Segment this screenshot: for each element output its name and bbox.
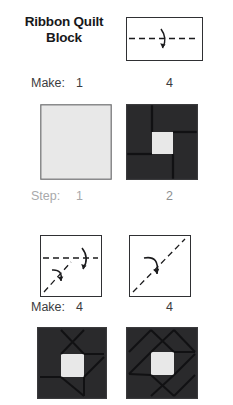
center-light-square-icon (61, 354, 84, 377)
pinwheel-log-cabin-svg (126, 104, 198, 180)
step-number-one: 1 (76, 189, 83, 203)
fold-arrow-head-icon (153, 269, 159, 274)
fold-square-right-diagram (129, 235, 191, 297)
quilt-instruction-sheet: Ribbon Quilt Block Make: 1 4 (0, 0, 233, 405)
ribbon-block-partial (37, 327, 107, 399)
step-row: Step: 1 2 (0, 189, 233, 209)
ribbon-block-complete (126, 327, 198, 399)
plain-light-square-block (40, 104, 112, 180)
light-fabric-square-icon (41, 105, 111, 179)
page-title-line2: Block (10, 30, 118, 46)
make-count-left-top: 1 (76, 76, 83, 90)
page-title: Ribbon Quilt Block (10, 14, 118, 46)
fold-square-right-svg (130, 236, 189, 295)
step-label: Step: (31, 189, 60, 203)
fold-square-left-diagram (40, 235, 102, 297)
row-title-and-fold-rectangle: Ribbon Quilt Block (0, 0, 233, 72)
make-row-top: Make: 1 4 (0, 76, 233, 96)
fold-arrow-left-head-icon (58, 276, 64, 281)
diagonal-fold-line-icon (44, 262, 71, 292)
fold-rectangle-svg (127, 18, 201, 59)
diagonal-fold-line-icon (133, 239, 185, 292)
make-label-top: Make: (31, 76, 65, 90)
ribbon-block-complete-svg (126, 327, 198, 399)
seam-left-bottom-icon (129, 374, 151, 375)
page-title-line1: Ribbon Quilt (25, 14, 104, 29)
make-count-right-bottom: 4 (166, 300, 173, 314)
make-count-left-bottom: 4 (76, 300, 83, 314)
make-row-bottom: Make: 4 4 (0, 300, 233, 320)
center-light-square-icon (152, 132, 173, 154)
center-light-square-icon (151, 352, 174, 375)
make-count-right-top: 4 (166, 76, 173, 90)
ribbon-block-partial-svg (37, 327, 107, 399)
pinwheel-log-cabin-block (126, 104, 198, 180)
fold-square-left-svg (41, 236, 100, 295)
fold-rectangle-diagram (126, 17, 203, 61)
step-number-two: 2 (166, 189, 173, 203)
make-label-bottom: Make: (31, 300, 65, 314)
plain-square-svg (40, 104, 112, 180)
